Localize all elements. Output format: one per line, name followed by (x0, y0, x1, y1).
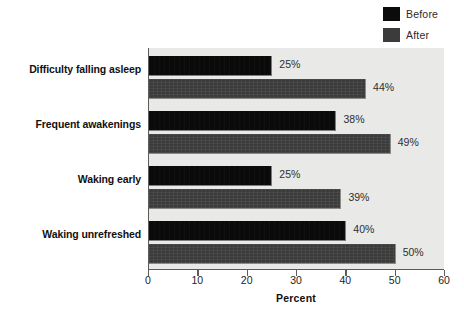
bar-before[interactable] (149, 221, 346, 241)
x-tick-label: 50 (389, 274, 401, 286)
before-swatch-icon (383, 7, 400, 21)
bar-value-label: 25% (279, 168, 300, 180)
bar-group: 25%44% (149, 56, 444, 103)
bar-value-label: 44% (373, 81, 394, 93)
bar-row: 38% (149, 111, 444, 131)
bar-group: 38%49% (149, 111, 444, 158)
bar-row: 39% (149, 189, 444, 209)
bar-before[interactable] (149, 166, 272, 186)
bar-row: 50% (149, 244, 444, 264)
x-tick-label: 20 (241, 274, 253, 286)
bar-row: 25% (149, 56, 444, 76)
bar-value-label: 49% (398, 136, 419, 148)
category-label-2: Waking early (0, 173, 148, 185)
bar-row: 49% (149, 134, 444, 154)
category-label-3: Waking unrefreshed (0, 228, 148, 240)
legend-label-after: After (406, 29, 429, 41)
bar-before[interactable] (149, 111, 336, 131)
after-swatch-icon (383, 28, 400, 42)
plot-inner: 25%44%38%49%25%39%40%50% (149, 48, 444, 269)
bar-before[interactable] (149, 56, 272, 76)
bar-after[interactable] (149, 134, 391, 154)
bar-row: 44% (149, 79, 444, 99)
x-tick-label: 60 (438, 274, 450, 286)
legend-item-before[interactable]: Before (383, 5, 461, 22)
bar-after[interactable] (149, 79, 366, 99)
bar-row: 25% (149, 166, 444, 186)
bar-value-label: 50% (403, 246, 424, 258)
bar-value-label: 25% (279, 58, 300, 70)
bar-chart: Before After Difficulty falling asleep F… (0, 0, 464, 314)
category-label-1: Frequent awakenings (0, 118, 148, 130)
category-axis: Difficulty falling asleep Frequent awake… (0, 48, 148, 270)
bar-group: 40%50% (149, 221, 444, 268)
x-axis-title: Percent (148, 292, 444, 304)
x-tick-label: 40 (339, 274, 351, 286)
legend-label-before: Before (406, 8, 438, 20)
plot-area: 25%44%38%49%25%39%40%50% (148, 48, 444, 270)
bar-value-label: 40% (353, 223, 374, 235)
x-axis-tick-labels: 0102030405060 (0, 274, 464, 288)
x-tick-label: 0 (145, 274, 151, 286)
bar-after[interactable] (149, 244, 396, 264)
bar-value-label: 38% (343, 113, 364, 125)
x-tick-label: 30 (290, 274, 302, 286)
bar-value-label: 39% (348, 191, 369, 203)
category-label-0: Difficulty falling asleep (0, 63, 148, 75)
x-tick-label: 10 (191, 274, 203, 286)
bar-group: 25%39% (149, 166, 444, 213)
bar-row: 40% (149, 221, 444, 241)
legend-item-after[interactable]: After (383, 26, 461, 43)
bar-after[interactable] (149, 189, 341, 209)
chart-legend: Before After (383, 5, 461, 47)
